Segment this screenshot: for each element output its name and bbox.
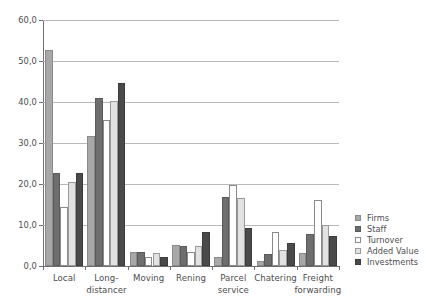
bar bbox=[237, 198, 245, 266]
legend-item[interactable]: Turnover bbox=[355, 234, 419, 245]
y-tick-mark bbox=[39, 225, 43, 226]
x-axis-category-label: Rening bbox=[176, 273, 206, 285]
y-axis-tick-label: 50,0 bbox=[18, 56, 37, 66]
y-axis-tick-label: 20,0 bbox=[18, 179, 37, 189]
x-tick-mark bbox=[297, 266, 298, 270]
bar bbox=[68, 182, 76, 266]
x-tick-mark bbox=[212, 266, 213, 270]
x-tick-mark bbox=[339, 266, 340, 270]
chart-legend: FirmsStaffTurnoverAdded ValueInvestments bbox=[355, 212, 419, 268]
x-tick-mark bbox=[254, 266, 255, 270]
bar bbox=[60, 207, 68, 266]
bar bbox=[137, 252, 145, 266]
legend-label: Investments bbox=[367, 257, 418, 267]
legend-swatch-icon bbox=[355, 237, 361, 243]
x-tick-mark bbox=[43, 266, 44, 270]
x-tick-mark bbox=[85, 266, 86, 270]
bar bbox=[95, 98, 103, 267]
legend-label: Staff bbox=[367, 224, 386, 234]
bar bbox=[314, 200, 322, 266]
y-tick-mark bbox=[39, 143, 43, 144]
bar bbox=[160, 257, 168, 266]
bar bbox=[214, 257, 222, 266]
bar bbox=[229, 185, 237, 266]
bar bbox=[172, 245, 180, 266]
bar bbox=[245, 228, 253, 266]
bar-chart: 0,010,020,030,040,050,060,0 LocalLong- d… bbox=[0, 0, 426, 305]
bar bbox=[257, 261, 265, 266]
legend-label: Firms bbox=[367, 213, 389, 223]
bar bbox=[329, 236, 337, 266]
bar bbox=[187, 252, 195, 266]
x-axis-category-label: Local bbox=[53, 273, 76, 285]
bar bbox=[118, 83, 126, 266]
bar-group bbox=[299, 20, 337, 266]
legend-swatch-icon bbox=[355, 248, 361, 254]
bar-group bbox=[87, 20, 125, 266]
y-tick-mark bbox=[39, 102, 43, 103]
legend-item[interactable]: Added Value bbox=[355, 246, 419, 257]
bar bbox=[180, 246, 188, 267]
bar bbox=[103, 120, 111, 266]
x-axis-category-label: Moving bbox=[133, 273, 164, 285]
bar bbox=[110, 101, 118, 266]
legend-item[interactable]: Investments bbox=[355, 257, 419, 268]
bar bbox=[299, 253, 307, 266]
bar bbox=[306, 234, 314, 266]
legend-label: Turnover bbox=[367, 235, 403, 245]
legend-swatch-icon bbox=[355, 259, 361, 265]
plot-area: 0,010,020,030,040,050,060,0 LocalLong- d… bbox=[43, 20, 339, 266]
y-axis-tick-label: 60,0 bbox=[18, 15, 37, 25]
bar-group bbox=[257, 20, 295, 266]
bar bbox=[45, 50, 53, 266]
bar bbox=[87, 136, 95, 266]
bar bbox=[145, 257, 153, 266]
bar bbox=[279, 250, 287, 266]
y-axis-tick-label: 30,0 bbox=[18, 138, 37, 148]
x-axis-category-label: Chatering bbox=[254, 273, 297, 285]
x-axis-category-label: Long- distancer bbox=[86, 273, 126, 296]
bar bbox=[202, 232, 210, 266]
bar-group bbox=[45, 20, 83, 266]
bar bbox=[53, 173, 61, 266]
x-tick-mark bbox=[128, 266, 129, 270]
gridline bbox=[43, 266, 339, 267]
bar-group bbox=[214, 20, 252, 266]
y-tick-mark bbox=[39, 20, 43, 21]
legend-label: Added Value bbox=[367, 246, 419, 256]
bar bbox=[153, 253, 161, 266]
bar bbox=[76, 173, 84, 266]
y-axis-tick-label: 40,0 bbox=[18, 97, 37, 107]
bar bbox=[322, 225, 330, 266]
y-axis-tick-label: 0,0 bbox=[24, 261, 38, 271]
bar bbox=[264, 254, 272, 266]
bar bbox=[287, 243, 295, 266]
y-axis-tick-label: 10,0 bbox=[18, 220, 37, 230]
legend-swatch-icon bbox=[355, 226, 361, 232]
x-axis-category-label: Parcel service bbox=[218, 273, 249, 296]
bar bbox=[195, 246, 203, 266]
bar-group bbox=[172, 20, 210, 266]
y-tick-mark bbox=[39, 184, 43, 185]
bar bbox=[222, 197, 230, 266]
x-tick-mark bbox=[170, 266, 171, 270]
legend-swatch-icon bbox=[355, 215, 361, 221]
bar bbox=[272, 232, 280, 266]
bar bbox=[130, 252, 138, 266]
x-axis-category-label: Freight forwarding bbox=[294, 273, 341, 296]
y-tick-mark bbox=[39, 61, 43, 62]
legend-item[interactable]: Firms bbox=[355, 212, 419, 223]
legend-item[interactable]: Staff bbox=[355, 223, 419, 234]
bar-group bbox=[130, 20, 168, 266]
